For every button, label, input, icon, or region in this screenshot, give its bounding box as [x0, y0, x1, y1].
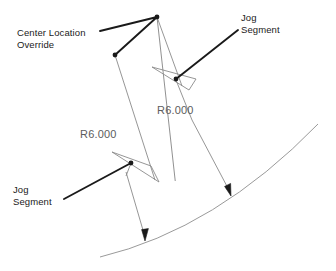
label-radius-lower: R6.000 [80, 128, 117, 140]
dimension-arrowhead-right [225, 183, 231, 196]
radial-line-left [115, 55, 155, 180]
diagram-canvas: Center Location Override Jog Segment Jog… [0, 0, 336, 271]
jog-dot-lower [129, 161, 134, 166]
label-jog-segment-bottom: Jog Segment [13, 184, 52, 207]
reference-arc [100, 124, 318, 257]
jog-arrowhead-lower [112, 152, 159, 182]
dimension-arrowhead-left [142, 229, 149, 241]
leader-jog-segment-top [176, 30, 238, 79]
leader-center-override [100, 17, 157, 55]
dimension-line-right [192, 120, 230, 192]
leader-jog-segment-bottom [64, 163, 131, 199]
label-radius-upper: R6.000 [157, 104, 194, 116]
dimension-line-left [126, 172, 145, 237]
vertex-dot-override [113, 53, 118, 58]
label-jog-segment-top: Jog Segment [241, 12, 280, 35]
label-center-location-override: Center Location Override [17, 27, 86, 50]
vertex-dot-top [155, 15, 160, 20]
jog-dot-upper [174, 77, 179, 82]
